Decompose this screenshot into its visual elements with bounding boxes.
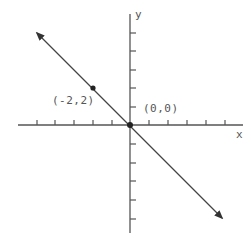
x-axis-label: x — [236, 128, 243, 141]
point-neg2-2 — [90, 85, 95, 90]
point-label-neg2-2: (-2,2) — [52, 94, 95, 107]
point-origin — [127, 122, 133, 128]
point-label-origin: (0,0) — [143, 102, 179, 115]
coordinate-plane — [0, 0, 251, 249]
y-axis-label: y — [135, 8, 142, 21]
